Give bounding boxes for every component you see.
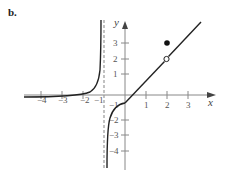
y-axis: 3 2 1 −1 −2 −3 −4 y [109,16,129,170]
y-tick-label: −4 [109,146,119,156]
y-tick-label: −3 [109,130,119,140]
open-point-2-2 [164,56,169,61]
x-axis-label: x [207,96,213,108]
function-graph: b. −4 −3 −2 −1 1 2 3 x [0,0,228,180]
x-tick-label: 2 [165,100,170,110]
x-axis: −4 −3 −2 −1 1 2 3 x [24,91,216,110]
x-tick-label: 3 [186,100,191,110]
y-tick-label: 1 [113,69,118,79]
y-tick-label: −1 [109,100,119,110]
x-tick-label: 1 [144,100,149,110]
line-segment-upper [169,22,202,57]
y-tick-label: 3 [113,38,118,48]
part-label: b. [8,6,17,18]
line-segment-lower [125,62,165,104]
curve-left-branch [24,20,101,97]
closed-point-2-3 [164,40,170,46]
x-tick-label: −1 [94,95,104,105]
y-axis-arrow-icon [122,21,128,29]
x-tick-label: −2 [80,95,90,105]
y-tick-label: 2 [113,54,118,64]
y-axis-label: y [113,16,119,28]
